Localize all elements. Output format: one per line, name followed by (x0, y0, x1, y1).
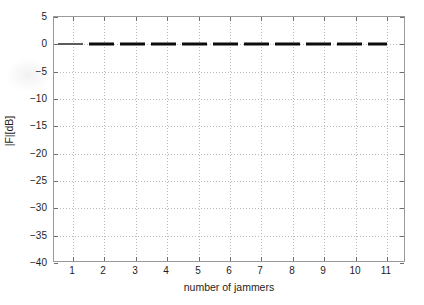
x-tick-label: 4 (163, 265, 169, 276)
gridline-vertical (73, 17, 74, 261)
x-tick-mark (356, 257, 357, 261)
series-dash-segment (306, 43, 331, 46)
x-tick-mark (199, 17, 200, 21)
gridline-horizontal (54, 154, 404, 155)
x-tick-label: 3 (132, 265, 138, 276)
x-tick-label: 10 (349, 265, 360, 276)
series-dash-segment (58, 43, 83, 45)
gridline-vertical (199, 17, 200, 261)
y-tick-mark (400, 263, 404, 264)
y-tick-label: −10 (0, 93, 47, 104)
gridline-vertical (387, 17, 388, 261)
x-tick-mark (167, 17, 168, 21)
y-tick-mark (400, 17, 404, 18)
x-tick-mark (73, 257, 74, 261)
y-tick-mark (400, 99, 404, 100)
x-tick-label: 5 (195, 265, 201, 276)
gridline-horizontal (54, 44, 404, 45)
x-tick-mark (324, 257, 325, 261)
y-tick-mark (400, 236, 404, 237)
x-tick-label: 1 (69, 265, 75, 276)
x-tick-mark (136, 17, 137, 21)
x-tick-label: 6 (226, 265, 232, 276)
series-dash-segment (120, 43, 145, 46)
x-tick-mark (136, 257, 137, 261)
y-tick-mark (54, 126, 58, 127)
y-tick-mark (54, 263, 58, 264)
y-tick-mark (54, 72, 58, 73)
gridline-horizontal (54, 236, 404, 237)
x-tick-mark (387, 257, 388, 261)
gridline-vertical (230, 17, 231, 261)
y-tick-mark (400, 126, 404, 127)
y-tick-label: −5 (0, 66, 47, 77)
gridline-horizontal (54, 72, 404, 73)
figure-canvas: 50−5−10−15−20−25−30−35−40 1234567891011 … (0, 0, 424, 305)
gridline-horizontal (54, 208, 404, 209)
x-tick-label: 11 (381, 265, 391, 276)
x-tick-mark (104, 257, 105, 261)
y-axis-title: |F|[dB] (3, 106, 15, 156)
gridline-horizontal (54, 181, 404, 182)
y-tick-mark (54, 17, 58, 18)
y-tick-mark (54, 181, 58, 182)
gridline-horizontal (54, 126, 404, 127)
series-dash-segment (89, 43, 114, 46)
y-tick-mark (400, 154, 404, 155)
x-axis-title: number of jammers (53, 281, 405, 293)
y-tick-mark (54, 44, 58, 45)
gridline-vertical (104, 17, 105, 261)
series-dash-segment (182, 43, 207, 46)
scan-artifact (6, 58, 52, 92)
x-tick-mark (199, 257, 200, 261)
gridline-vertical (356, 17, 357, 261)
y-tick-mark (400, 44, 404, 45)
series-dash-segment (151, 43, 176, 46)
x-tick-mark (230, 257, 231, 261)
gridline-vertical (293, 17, 294, 261)
gridline-vertical (324, 17, 325, 261)
x-tick-label: 7 (257, 265, 263, 276)
y-tick-label: −35 (0, 230, 47, 241)
y-tick-mark (400, 208, 404, 209)
x-tick-mark (387, 17, 388, 21)
gridline-vertical (136, 17, 137, 261)
plot-area (53, 16, 405, 262)
y-tick-label: 0 (0, 38, 47, 49)
x-tick-mark (104, 17, 105, 21)
gridline-vertical (167, 17, 168, 261)
series-dash-segment (213, 43, 238, 46)
x-tick-mark (73, 17, 74, 21)
y-tick-label: −30 (0, 202, 47, 213)
series-dash-segment (337, 43, 362, 46)
x-tick-mark (230, 17, 231, 21)
x-tick-mark (261, 17, 262, 21)
y-tick-label: −25 (0, 175, 47, 186)
x-tick-mark (293, 17, 294, 21)
x-tick-mark (261, 257, 262, 261)
x-tick-mark (324, 17, 325, 21)
y-tick-mark (54, 208, 58, 209)
x-tick-label: 8 (289, 265, 295, 276)
y-tick-mark (400, 72, 404, 73)
y-tick-label: 5 (0, 11, 47, 22)
x-tick-mark (356, 17, 357, 21)
y-tick-label: −40 (0, 257, 47, 268)
data-series-line (54, 17, 404, 261)
gridline-horizontal (54, 99, 404, 100)
gridline-vertical (261, 17, 262, 261)
series-dash-segment (368, 43, 387, 46)
y-tick-mark (54, 154, 58, 155)
x-tick-mark (293, 257, 294, 261)
series-dash-segment (275, 43, 300, 46)
y-tick-mark (400, 181, 404, 182)
y-tick-mark (54, 236, 58, 237)
y-tick-mark (54, 99, 58, 100)
x-tick-label: 9 (320, 265, 326, 276)
series-dash-segment (244, 43, 269, 46)
x-tick-label: 2 (100, 265, 106, 276)
x-tick-mark (167, 257, 168, 261)
